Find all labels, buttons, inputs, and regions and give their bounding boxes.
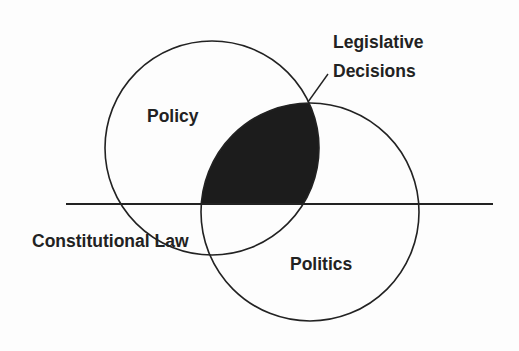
legislative-decisions-region (201, 103, 419, 321)
diagram-canvas: Legislative Decisions Policy Constitutio… (0, 0, 519, 351)
intersection-region-group (201, 103, 419, 321)
callout-label-line2: Decisions (333, 61, 416, 81)
constitutional-law-label: Constitutional Law (32, 231, 189, 251)
venn-diagram: Legislative Decisions Policy Constitutio… (0, 0, 519, 351)
policy-label: Policy (147, 106, 199, 126)
callout-label-line1: Legislative (333, 32, 424, 52)
politics-label: Politics (290, 254, 353, 274)
callout-pointer-line (308, 74, 328, 102)
